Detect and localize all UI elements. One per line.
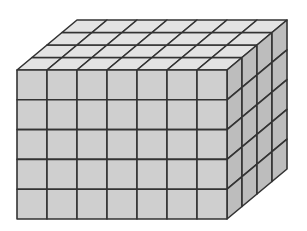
front-cube-face	[17, 70, 47, 100]
front-cube-face	[167, 189, 197, 219]
front-face	[17, 70, 227, 219]
front-cube-face	[47, 100, 77, 130]
front-cube-face	[197, 189, 227, 219]
front-cube-face	[137, 159, 167, 189]
front-cube-face	[107, 130, 137, 160]
front-cube-face	[197, 130, 227, 160]
front-cube-face	[77, 189, 107, 219]
front-cube-face	[77, 70, 107, 100]
front-cube-face	[107, 159, 137, 189]
front-cube-face	[77, 130, 107, 160]
front-cube-face	[47, 159, 77, 189]
front-cube-face	[107, 70, 137, 100]
front-cube-face	[47, 189, 77, 219]
front-cube-face	[167, 159, 197, 189]
front-cube-face	[17, 159, 47, 189]
front-cube-face	[107, 100, 137, 130]
cube-prism-diagram: Rectangular prism built from 7 × 5 × 4 u…	[0, 0, 307, 231]
front-cube-face	[107, 189, 137, 219]
front-cube-face	[137, 130, 167, 160]
front-cube-face	[167, 100, 197, 130]
front-cube-face	[137, 70, 167, 100]
front-cube-face	[17, 100, 47, 130]
front-cube-face	[137, 189, 167, 219]
front-cube-face	[197, 100, 227, 130]
front-cube-face	[77, 159, 107, 189]
front-cube-face	[47, 130, 77, 160]
front-cube-face	[47, 70, 77, 100]
front-cube-face	[167, 70, 197, 100]
front-cube-face	[197, 70, 227, 100]
front-cube-face	[167, 130, 197, 160]
front-cube-face	[197, 159, 227, 189]
prism-drawing	[0, 0, 307, 231]
front-cube-face	[77, 100, 107, 130]
front-cube-face	[137, 100, 167, 130]
front-cube-face	[17, 189, 47, 219]
front-cube-face	[17, 130, 47, 160]
